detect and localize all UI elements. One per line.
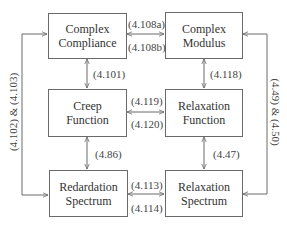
connector-lines	[0, 0, 287, 228]
box-label: Function	[66, 113, 109, 127]
edge-label-left-outer: (4.102) & (4.103)	[7, 73, 19, 151]
box-label: Complex	[66, 22, 110, 36]
box-label: Relaxation	[178, 180, 230, 194]
box-redardation-spectrum: Redardation Spectrum	[49, 170, 128, 217]
box-label: Spectrum	[66, 194, 112, 208]
box-complex-compliance: Complex Compliance	[48, 13, 127, 59]
edge-label: (4.118)	[210, 68, 242, 80]
box-label: Relaxation	[178, 99, 230, 113]
box-complex-modulus: Complex Modulus	[165, 12, 243, 59]
edge-label-right-outer: (4.49) & (4.50)	[270, 78, 282, 145]
box-label: Compliance	[59, 36, 117, 50]
box-creep-function: Creep Function	[48, 89, 127, 137]
edge-label: (4.108a)	[128, 18, 165, 30]
box-label: Modulus	[183, 36, 226, 50]
box-label: Function	[183, 113, 226, 127]
edge-label: (4.119)	[131, 95, 163, 107]
box-label: Redardation	[59, 180, 118, 194]
edge-label: (4.86)	[95, 148, 122, 160]
box-label: Spectrum	[181, 194, 227, 208]
box-label: Creep	[73, 99, 102, 113]
arrow-left-outer	[22, 34, 48, 195]
box-relaxation-function: Relaxation Function	[165, 89, 243, 137]
edge-label: (4.47)	[213, 148, 240, 160]
arrow-right-outer	[243, 34, 267, 194]
edge-label: (4.114)	[131, 202, 163, 214]
edge-label: (4.113)	[131, 179, 163, 191]
box-label: Complex	[182, 22, 226, 36]
edge-label: (4.120)	[131, 118, 163, 130]
edge-label: (4.101)	[93, 68, 125, 80]
edge-label: (4.108b)	[128, 41, 166, 53]
box-relaxation-spectrum: Relaxation Spectrum	[165, 170, 243, 217]
